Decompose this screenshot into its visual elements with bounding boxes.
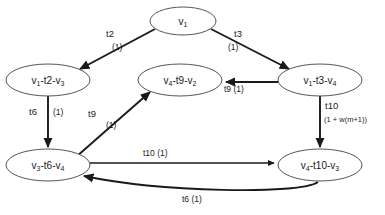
node-v4-t10-v3[interactable] [278,149,362,181]
node-v1-t3-v4[interactable] [278,64,362,96]
edge-t2 [80,29,155,69]
node-v3-t6-v4[interactable] [6,149,90,181]
node-v4-t9-v2[interactable] [138,64,222,96]
node-v1[interactable] [150,7,216,35]
node-v1-t2-v3[interactable] [6,64,90,96]
graph-svg [0,0,385,215]
edge-t9-diagonal [76,92,150,157]
edge-t3 [211,29,289,69]
edge-t6-bottom [84,176,318,190]
diagram-canvas: v1 v1-t2-v3 v4-t9-v2 v1-t3-v4 v3-t6-v4 v… [0,0,385,215]
